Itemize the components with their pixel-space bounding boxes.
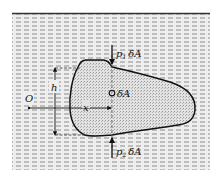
top-force-label: p1δA	[116, 48, 141, 60]
submerged-body-diagram: p1δA p2δA δA h O x	[0, 0, 219, 179]
element-label: δA	[117, 88, 130, 99]
origin-label: O	[25, 93, 33, 104]
origin-point	[28, 107, 30, 109]
bottom-force-label: p2δA	[116, 146, 141, 158]
height-label: h	[51, 82, 57, 93]
x-label: x	[83, 102, 89, 113]
